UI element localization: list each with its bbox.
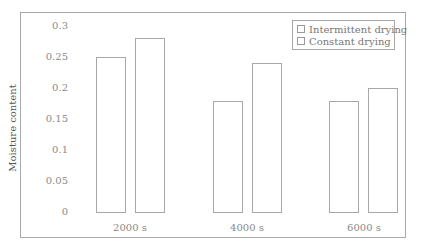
bar-intermittent-4000s [213, 101, 243, 213]
y-tick-0.15: 0.15 [28, 113, 68, 124]
y-tick-0.3: 0.3 [28, 20, 68, 31]
bar-intermittent-2000s [96, 57, 126, 213]
y-tick-0.2: 0.2 [28, 82, 68, 93]
bar-constant-4000s [252, 63, 282, 213]
bar-constant-6000s [368, 88, 398, 213]
legend-swatch-icon [297, 37, 305, 45]
x-label-4000: 4000 s [217, 222, 277, 233]
x-label-2000: 2000 s [100, 222, 160, 233]
y-tick-0: 0 [28, 206, 68, 217]
y-tick-0.05: 0.05 [28, 175, 68, 186]
bar-constant-2000s [135, 38, 165, 213]
y-tick-0.25: 0.25 [28, 51, 68, 62]
x-label-6000: 6000 s [334, 222, 394, 233]
bar-intermittent-6000s [329, 101, 359, 213]
legend-swatch-icon [297, 25, 305, 33]
legend: Intermittent drying Constant drying [292, 20, 395, 50]
legend-item-constant: Constant drying [293, 35, 394, 47]
y-tick-0.1: 0.1 [28, 144, 68, 155]
legend-label: Constant drying [309, 36, 391, 47]
legend-label: Intermittent drying [309, 24, 407, 35]
y-axis-label: Moisture content [7, 68, 21, 188]
legend-item-intermittent: Intermittent drying [293, 23, 394, 35]
